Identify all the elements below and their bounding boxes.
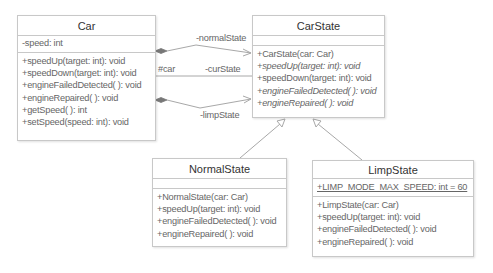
label-car: #car [158,64,175,74]
attribute: -speed: int [22,37,151,49]
operation: +engineRepaired( ): void [22,92,151,104]
operation: +getSpeed( ): int [22,104,151,116]
class-limp-state[interactable]: LimpState +LIMP_MODE_MAX_SPEED: int = 60… [312,160,474,257]
label-normal-state: -normalState [196,33,246,43]
operation: +engineRepaired( ): void [157,228,282,240]
abstract-operation: +speedUp(target: int): void [257,60,380,72]
label-limp-state: -limpState [200,110,239,120]
generalization-limp-state [313,119,362,160]
operation: +CarState(car: Car) [257,48,380,60]
operation: +engineRepaired( ): void [317,236,469,248]
operation: +speedDown(target: int): void [22,67,151,79]
static-attribute: +LIMP_MODE_MAX_SPEED: int = 60 [317,181,469,193]
attributes-compartment: -speed: int [18,36,155,53]
abstract-operation: +engineFailedDetected( ): void [257,85,380,97]
composition-diamond-icon [155,49,167,54]
operation: +engineFailedDetected( ): void [317,223,469,235]
attributes-compartment [253,36,384,46]
operation: +LimpState(car: Car) [317,199,469,211]
operations-compartment: +CarState(car: Car) +speedUp(target: int… [253,46,384,109]
class-name: CarState [253,16,384,36]
operation: +engineFailedDetected( ): void [157,215,282,227]
association-normal-state [155,45,251,56]
operations-compartment: +speedUp(target: int): void +speedDown(t… [18,53,155,128]
operation: +setSpeed(speed: int): void [22,116,151,128]
operation: +speedUp(target: int): void [157,203,282,215]
abstract-operation: +engineRepaired( ): void [257,97,380,109]
class-name: NormalState [153,159,286,179]
operation: +speedUp(target: int): void [317,211,469,223]
class-car-state[interactable]: CarState +CarState(car: Car) +speedUp(ta… [252,15,385,118]
operation: +NormalState(car: Car) [157,191,282,203]
operation: +engineFailedDetected( ): void [22,79,151,91]
class-normal-state[interactable]: NormalState +NormalState(car: Car) +spee… [152,158,287,247]
operations-compartment: +LimpState(car: Car) +speedUp(target: in… [313,197,473,248]
class-name: Car [18,16,155,36]
composition-diamond-icon [155,98,167,103]
operation: +speedDown(target: int): void [257,72,380,84]
label-cur-state: -curState [205,64,240,74]
operation: +speedUp(target: int): void [22,55,151,67]
attributes-compartment [153,179,286,189]
operations-compartment: +NormalState(car: Car) +speedUp(target: … [153,189,286,240]
generalization-normal-state [240,119,285,158]
class-car[interactable]: Car -speed: int +speedUp(target: int): v… [17,15,156,141]
association-limp-state [155,96,251,108]
class-name: LimpState [313,161,473,179]
attributes-compartment: +LIMP_MODE_MAX_SPEED: int = 60 [313,179,473,197]
